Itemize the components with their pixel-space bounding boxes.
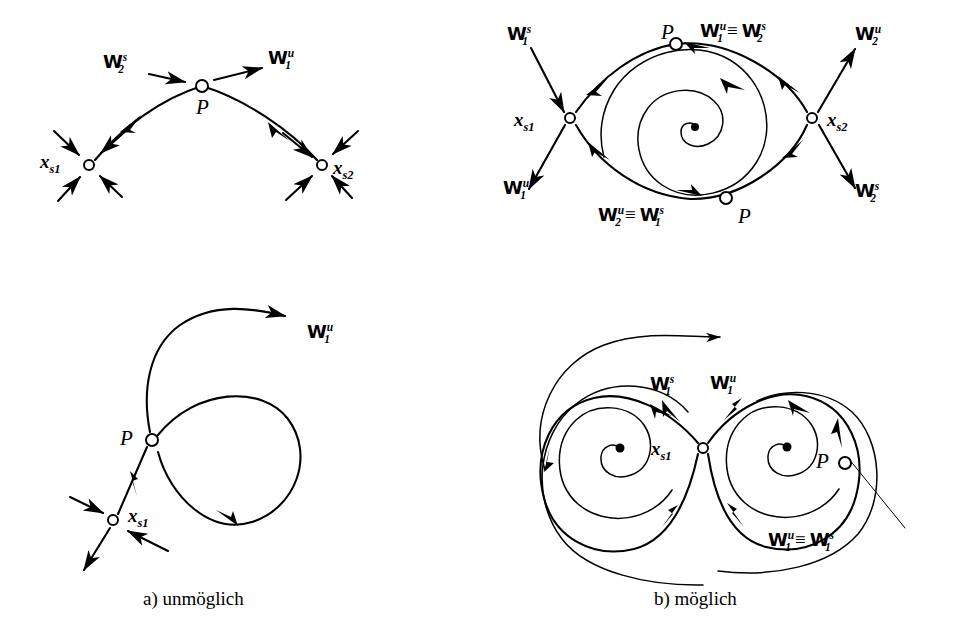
arrowhead-lens-upper-right <box>778 76 800 93</box>
point-P-marker <box>146 434 158 446</box>
label-W1u-escape: Wu1 <box>307 322 330 346</box>
label-W1u-eq-W1s: Wu1≡Ws1 <box>768 530 831 554</box>
label-W1s-eight-sup: s <box>670 373 674 385</box>
label-xs1-right-sub: s1 <box>524 120 535 134</box>
node-xs1-arrow-nw <box>70 497 103 513</box>
spiral-focus-right-marker <box>783 443 792 452</box>
node-xs1-arrow-sw <box>58 177 80 201</box>
label-P-bottom: P <box>738 206 751 227</box>
label-W2s-sup: s <box>123 51 127 63</box>
caption-b: b) möglich <box>654 588 737 610</box>
xs2-branch-W2u <box>818 49 855 112</box>
saddle-xs2-marker <box>317 160 327 170</box>
label-W2u-sup: u <box>875 23 881 35</box>
label-P: P <box>196 97 209 118</box>
label-W1u-sup: u <box>288 47 294 59</box>
left-interior-spiral <box>559 408 672 519</box>
node-xs1-arrow-sw <box>84 528 110 570</box>
label-xs1-bl-sub: s1 <box>138 516 149 530</box>
label-W2u-eq-W1s: Wu2≡Ws1 <box>598 205 661 229</box>
saddle-xs2-marker <box>807 113 817 123</box>
outer-trajectory-escape <box>540 335 720 470</box>
label-W2u-sub: 2 <box>872 35 878 47</box>
label-W1u-ll-sup: u <box>523 177 529 189</box>
label-W1u-escape-sub: 1 <box>324 333 330 345</box>
panel-bottom-left-graphics <box>70 309 300 570</box>
interior-spiral <box>601 50 767 196</box>
label-P-top: P <box>661 22 674 43</box>
equiv-sign-3: ≡ <box>791 529 810 550</box>
label-W1u-eq-W2s: Wu1≡Ws2 <box>700 21 763 45</box>
arrowhead-lens-upper-left <box>586 78 608 96</box>
label-W1u-lower-left: Wu1 <box>503 178 526 202</box>
label-xs1-eight-base: x <box>651 438 661 459</box>
saddle-xs1-marker <box>84 160 94 170</box>
caption-a: a) unmöglich <box>143 588 244 610</box>
node-xs2-arrow-ne <box>333 131 358 154</box>
label-xs1-bl-base: x <box>128 505 138 526</box>
label-W1u: Wu1 <box>268 48 291 72</box>
label-W1u-eq-W1s-sup2: s <box>830 529 834 541</box>
label-xs1-base: x <box>40 151 50 172</box>
label-W1u-eight-sub: 1 <box>727 384 733 396</box>
saddle-xs1-marker <box>565 113 575 123</box>
equiv-sign: ≡ <box>723 20 742 41</box>
label-xs2-right-base: x <box>827 109 837 130</box>
label-W1u-sub: 1 <box>285 59 291 71</box>
unstable-branch-W1u <box>214 68 262 80</box>
label-W1s: Ws1 <box>507 24 528 48</box>
figure-eight-left-lobe <box>541 396 698 551</box>
label-W2u: Wu2 <box>855 24 878 48</box>
label-W2u-eq-W1s-sub2: 1 <box>655 216 661 228</box>
label-xs2-right-sub: s2 <box>837 120 848 134</box>
stable-segment-P-to-xs1 <box>118 447 147 514</box>
label-W1u-ll-sub: 1 <box>520 189 526 201</box>
label-xs1: xs1 <box>40 152 61 175</box>
arrowhead-spiral <box>720 78 745 94</box>
point-P-marker <box>196 80 208 92</box>
escaping-unstable-branch <box>147 309 285 432</box>
label-xs1-eight: xs1 <box>651 439 672 462</box>
label-W1s-eight-sub: 1 <box>665 385 671 397</box>
node-xs1-arrow-se <box>128 531 168 551</box>
xs2-branch-W2s <box>819 125 855 188</box>
label-W1u-eq-W2s-sup2: s <box>762 20 766 32</box>
arrowhead-lens-lower-left <box>588 142 610 160</box>
label-W1s-sup: s <box>527 23 531 35</box>
label-xs2: xs2 <box>333 158 354 181</box>
label-W2s-lower-right: Ws2 <box>855 181 876 205</box>
label-P-bottom-left: P <box>120 428 133 449</box>
panel-top-left-graphics <box>54 68 358 201</box>
node-xs2-arrow-sw <box>286 176 312 200</box>
label-xs2-right-panel: xs2 <box>827 110 848 133</box>
spiral-focus-marker <box>691 123 699 131</box>
stable-branch-W2s <box>149 74 185 82</box>
node-xs1-arrow-se <box>100 176 122 197</box>
label-W1u-eight: Wu1 <box>710 373 733 397</box>
arrowhead-lens-lower-right <box>782 140 803 158</box>
label-W1u-escape-sup: u <box>327 321 333 333</box>
label-xs1-sub: s1 <box>50 162 61 176</box>
lens-upper-branch <box>576 43 807 112</box>
label-W1u-eight-sup: u <box>730 372 736 384</box>
label-xs1-right-panel: xs1 <box>514 110 535 133</box>
label-W1u-eq-W1s-sub2: 1 <box>825 541 831 553</box>
point-P-marker <box>839 457 851 469</box>
arrowhead-P-inflow <box>831 418 842 448</box>
point-P-bottom-marker <box>720 192 732 204</box>
arrowhead-right-lobe-lower <box>727 503 744 527</box>
label-W2s-lr-sub: 2 <box>870 192 876 204</box>
homoclinic-loop <box>158 396 300 524</box>
figure-eight-right-lobe <box>708 394 859 549</box>
label-W2s: Ws2 <box>103 52 124 76</box>
label-W2s-sub: 2 <box>118 63 124 75</box>
label-xs1-eight-sub: s1 <box>661 449 672 463</box>
label-P-eight: P <box>816 451 829 472</box>
saddle-xs1-marker <box>108 515 118 525</box>
label-xs2-base: x <box>333 157 343 178</box>
label-W1s-sub: 1 <box>522 35 528 47</box>
node-xs2-arrow-nw <box>283 133 312 157</box>
xs1-branch-W1u <box>529 125 565 189</box>
equiv-sign-2: ≡ <box>621 204 640 225</box>
saddle-xs1-marker <box>698 443 708 453</box>
